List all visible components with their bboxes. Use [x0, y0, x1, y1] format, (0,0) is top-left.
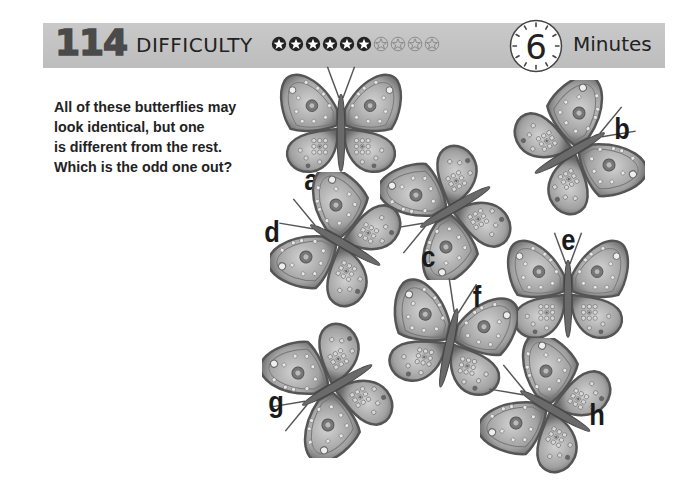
star-filled-icon	[305, 36, 321, 52]
star-filled-icon	[288, 36, 304, 52]
time-value: 6	[509, 20, 563, 74]
star-empty-icon	[390, 36, 406, 52]
butterfly-label-g: g	[268, 385, 284, 419]
star-filled-icon	[339, 36, 355, 52]
butterfly-label-d: d	[264, 215, 280, 249]
butterfly-label-c: c	[421, 240, 435, 274]
butterfly-label-f: f	[473, 280, 482, 314]
butterfly-label-b: b	[614, 112, 630, 146]
instructions-line: Which is the odd one out?	[54, 157, 266, 177]
butterfly-label-h: h	[589, 398, 605, 432]
butterfly-label-e: e	[561, 223, 575, 257]
star-filled-icon	[356, 36, 372, 52]
instructions-line: is different from the rest.	[54, 137, 266, 157]
time-unit-label: Minutes	[573, 32, 652, 56]
star-filled-icon	[322, 36, 338, 52]
star-empty-icon	[407, 36, 423, 52]
star-filled-icon	[271, 36, 287, 52]
instructions-line: All of these butterflies may	[54, 97, 266, 117]
instructions-line: look identical, but one	[54, 117, 266, 137]
difficulty-label: DIFFICULTY	[136, 33, 253, 57]
star-empty-icon	[373, 36, 389, 52]
puzzle-number: 114	[55, 22, 127, 63]
difficulty-stars	[271, 36, 440, 52]
butterfly-b-icon[interactable]	[505, 80, 645, 220]
star-empty-icon	[424, 36, 440, 52]
instructions: All of these butterflies may look identi…	[54, 97, 266, 177]
